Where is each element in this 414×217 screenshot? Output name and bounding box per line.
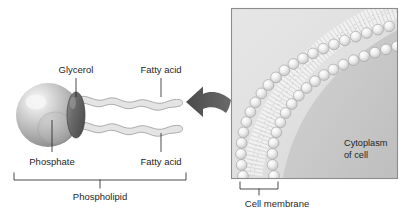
label-cytoplasm-line1: Cytoplasm [344,138,388,148]
phosphate-head-highlight [26,95,47,110]
label-cytoplasm-line2: of cell [344,150,368,160]
label-phospholipid: Phospholipid [73,191,127,202]
cell-membrane-bracket [240,182,278,189]
label-phosphate: Phosphate [29,156,74,167]
label-fatty-acid-top: Fatty acid [140,64,181,75]
label-fatty-acid-bottom: Fatty acid [140,156,181,167]
cell-membrane-panel: Cytoplasm of cell Cell membrane [232,7,403,209]
phospholipid-group: Glycerol Fatty acid Phosphate Fatty acid… [14,64,186,202]
glycerol-highlight [70,97,76,109]
diagram-figure: Glycerol Fatty acid Phosphate Fatty acid… [0,0,414,217]
fatty-acid-tails [74,96,183,136]
label-cell-membrane: Cell membrane [245,198,309,209]
label-glycerol: Glycerol [59,64,94,75]
zoom-out-arrow [186,87,231,118]
fatty-acid-tail-top [74,96,183,110]
phospholipid-bracket [14,173,186,180]
fatty-acid-tail-bottom [74,122,183,136]
glycerol-ellipse [67,92,85,138]
diagram-canvas: Glycerol Fatty acid Phosphate Fatty acid… [0,0,414,217]
arrow-shape [186,87,231,118]
